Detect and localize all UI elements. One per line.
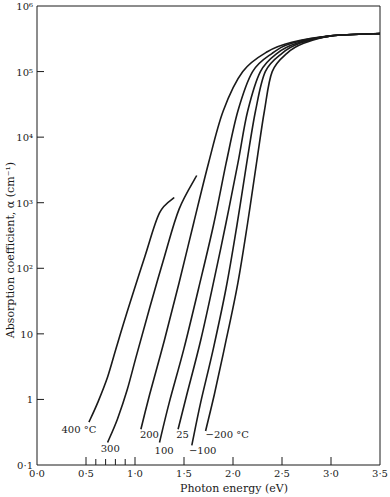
x-tick-label: 1·0 (127, 468, 143, 479)
y-tick-label: 1 (27, 394, 33, 405)
x-axis-ticks: 0·00·51·01·52·02·53·03·5 (29, 457, 388, 479)
x-tick-label: 1·5 (176, 468, 192, 479)
y-tick-label: 10⁶ (16, 1, 33, 12)
curve-300c (108, 176, 197, 443)
curve-200c (206, 34, 380, 431)
x-axis-label: Photon energy (eV) (180, 482, 288, 495)
curve-label: 300 (101, 443, 120, 454)
x-tick-label: 3·5 (372, 468, 388, 479)
x-tick-label: 3·0 (323, 468, 339, 479)
plot-frame (37, 6, 380, 465)
curve-100c (160, 34, 381, 443)
y-tick-label: 10⁵ (16, 67, 33, 78)
absorption-chart: 0·111010²10³10⁴10⁵10⁶ 0·00·51·01·52·02·5… (0, 0, 390, 497)
x-tick-label: 2·0 (225, 468, 241, 479)
curve-labels: 400 °C30020010025−100−200 °C (62, 424, 250, 456)
curve-200c (141, 34, 380, 430)
y-tick-label: 10 (20, 329, 33, 340)
y-tick-label: 10² (16, 263, 33, 274)
y-axis-label: Absorption coefficient, α (cm⁻¹) (4, 162, 17, 339)
curve-label: 25 (176, 429, 189, 440)
curve-label: −200 °C (206, 429, 250, 440)
curve-label: 400 °C (62, 424, 97, 435)
curve-label: 200 (140, 429, 159, 440)
axes (37, 6, 380, 465)
curve-100c (192, 34, 380, 446)
curve-label: −100 (189, 445, 216, 456)
y-tick-label: 10⁴ (16, 132, 33, 143)
y-tick-label: 10³ (16, 198, 33, 209)
x-tick-label: 0·0 (29, 468, 45, 479)
x-tick-label: 0·5 (78, 468, 94, 479)
x-tick-label: 2·5 (274, 468, 290, 479)
y-axis-ticks: 0·111010²10³10⁴10⁵10⁶ (16, 1, 44, 471)
curves (89, 34, 380, 446)
curve-label: 100 (155, 445, 174, 456)
curve-400c (89, 198, 174, 423)
